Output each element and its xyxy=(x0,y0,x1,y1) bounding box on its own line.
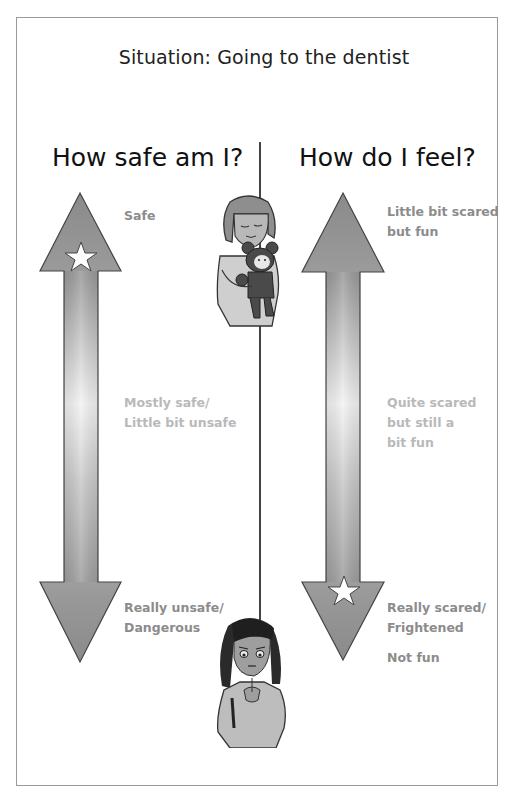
label-mostly-safe: Mostly safe/ Little bit unsafe xyxy=(124,393,236,433)
label-safe: Safe xyxy=(124,206,155,226)
label-quite-scared: Quite scared but still a bit fun xyxy=(387,393,477,453)
label-really-unsafe: Really unsafe/ Dangerous xyxy=(124,598,224,638)
girl-with-teddy-illustration xyxy=(208,194,292,328)
worried-girl-illustration xyxy=(210,612,296,748)
label-not-fun: Not fun xyxy=(387,648,440,668)
label-really-scared: Really scared/ Frightened xyxy=(387,598,486,638)
label-little-bit-scared: Little bit scared but fun xyxy=(387,202,499,242)
